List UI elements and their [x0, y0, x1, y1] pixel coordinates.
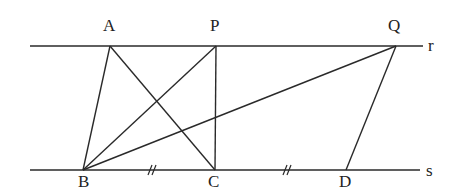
segment-PB — [83, 46, 216, 170]
point-label-C: C — [208, 172, 219, 189]
point-label-Q: Q — [388, 16, 400, 35]
segment-AC — [110, 46, 215, 170]
segment-PC — [215, 46, 216, 170]
point-label-P: P — [210, 16, 219, 35]
segment-AB — [83, 46, 110, 170]
point-label-B: B — [78, 172, 89, 189]
line-label-s: s — [426, 161, 433, 180]
segment-QB — [83, 46, 396, 170]
segment-QD — [346, 46, 396, 170]
point-label-D: D — [339, 172, 351, 189]
point-label-A: A — [103, 16, 116, 35]
geometry-diagram: rsAPQBCD — [0, 0, 463, 189]
line-label-r: r — [428, 36, 434, 55]
point-labels: rsAPQBCD — [78, 16, 434, 189]
parallel-lines — [30, 46, 423, 170]
segments — [83, 46, 396, 170]
